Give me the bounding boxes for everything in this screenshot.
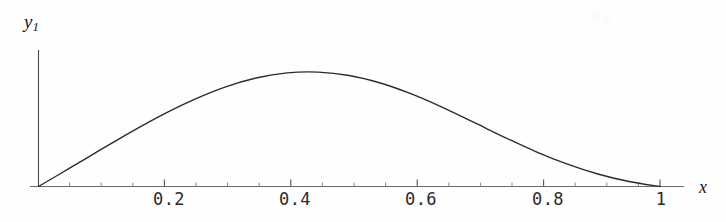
scan-artifacts <box>92 11 694 213</box>
x-tick-label-0.2: 0.2 <box>153 189 185 209</box>
plot-canvas <box>0 0 726 222</box>
x-tick-label-0.8: 0.8 <box>532 189 564 209</box>
data-curve <box>39 72 661 187</box>
x-tick-label-1: 1 <box>656 189 667 209</box>
x-axis-major-ticks <box>164 180 660 187</box>
x-axis-minor-ticks <box>70 183 639 187</box>
y-axis-label-subscript: 1 <box>32 19 39 34</box>
x-tick-label-0.6: 0.6 <box>405 189 437 209</box>
x-axis-label: x <box>699 178 707 196</box>
plot-figure: y1 x 0.2 0.4 0.6 0.8 1 <box>0 0 726 222</box>
x-tick-label-0.4: 0.4 <box>279 189 311 209</box>
y-axis-label: y1 <box>24 12 39 33</box>
